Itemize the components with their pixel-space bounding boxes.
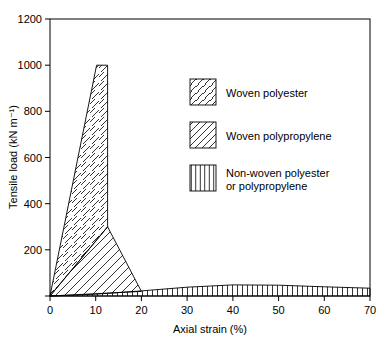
legend-swatch-non-woven bbox=[190, 165, 216, 191]
x-tick-label-60: 60 bbox=[318, 304, 330, 316]
legend-label-woven-polyester: Woven polyester bbox=[226, 87, 308, 99]
legend-label-non-woven-line2: or polypropylene bbox=[226, 180, 307, 192]
x-tick-label-40: 40 bbox=[227, 304, 239, 316]
x-tick-label-70: 70 bbox=[364, 304, 376, 316]
y-tick-label-400: 400 bbox=[24, 198, 42, 210]
chart-legend: Woven polyester Woven polypropylene Non-… bbox=[190, 79, 332, 192]
y-axis-title: Tensile load (kN m⁻¹) bbox=[7, 105, 19, 209]
y-tick-label-600: 600 bbox=[24, 152, 42, 164]
y-tick-label-1200: 1200 bbox=[18, 13, 42, 25]
chart-figure: 1200 1000 800 600 400 200 0 10 20 30 40 … bbox=[0, 0, 388, 339]
legend-swatch-woven-polypropylene bbox=[190, 122, 216, 148]
x-axis-ticks bbox=[50, 296, 370, 301]
x-tick-label-20: 20 bbox=[135, 304, 147, 316]
x-axis-title: Axial strain (%) bbox=[173, 323, 247, 335]
x-tick-label-50: 50 bbox=[272, 304, 284, 316]
x-axis-tick-labels: 0 10 20 30 40 50 60 70 bbox=[47, 304, 376, 316]
x-tick-label-30: 30 bbox=[181, 304, 193, 316]
y-tick-label-200: 200 bbox=[24, 244, 42, 256]
y-tick-label-800: 800 bbox=[24, 105, 42, 117]
x-tick-label-0: 0 bbox=[47, 304, 53, 316]
y-tick-label-1000: 1000 bbox=[18, 59, 42, 71]
y-axis-tick-labels: 1200 1000 800 600 400 200 bbox=[18, 13, 42, 256]
y-axis-ticks bbox=[45, 19, 50, 296]
tensile-load-vs-axial-strain-chart: 1200 1000 800 600 400 200 0 10 20 30 40 … bbox=[0, 0, 388, 339]
legend-item-woven-polyester: Woven polyester bbox=[190, 79, 308, 105]
legend-label-woven-polypropylene: Woven polypropylene bbox=[226, 130, 332, 142]
legend-item-woven-polypropylene: Woven polypropylene bbox=[190, 122, 332, 148]
legend-item-non-woven: Non-woven polyester or polypropylene bbox=[190, 165, 330, 192]
legend-swatch-woven-polyester bbox=[190, 79, 216, 105]
x-tick-label-10: 10 bbox=[90, 304, 102, 316]
legend-label-non-woven-line1: Non-woven polyester bbox=[226, 167, 330, 179]
